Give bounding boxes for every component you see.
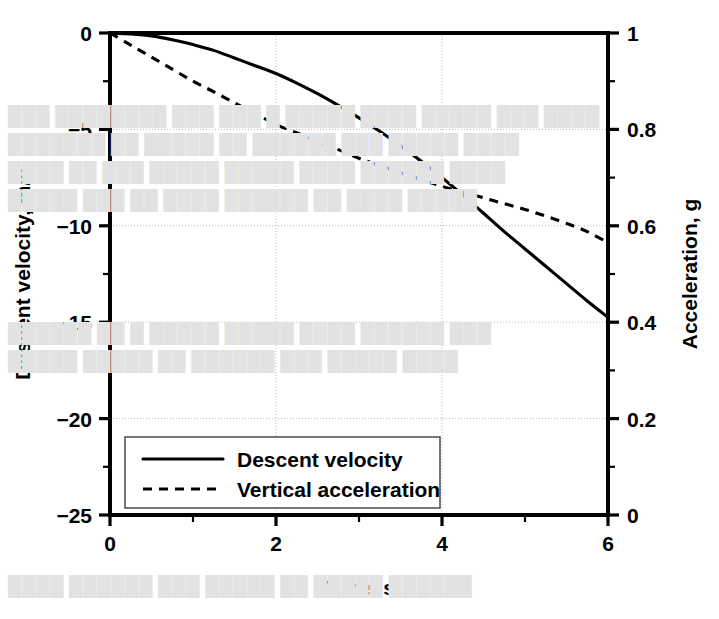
series-line-vertical-acceleration <box>110 33 608 243</box>
y-axis-tick-label: 0 <box>80 22 92 45</box>
y-axis-title: Descent velocity, m/s <box>11 168 34 380</box>
chart-figure: ███ ████████ ███ ███ █ █████ ████ █████ … <box>0 0 719 619</box>
y-axis-tick-label: −25 <box>56 504 92 527</box>
secondary-y-axis-tick-label: 1 <box>627 22 639 45</box>
secondary-y-axis-tick-label: 0.4 <box>627 311 657 334</box>
x-axis-tick-label: 4 <box>436 532 448 555</box>
secondary-y-axis-tick-label: 0.6 <box>627 215 656 238</box>
secondary-y-axis-tick-label: 0 <box>627 504 639 527</box>
legend-label: Vertical acceleration <box>237 478 440 501</box>
dual-axis-line-chart: 0−5−10−15−20−2510.80.60.40.200246 Time, … <box>0 0 719 619</box>
chart-legend: Descent velocityVertical acceleration <box>125 437 440 508</box>
legend-label: Descent velocity <box>237 448 403 471</box>
x-axis-tick-label: 0 <box>104 532 116 555</box>
x-axis-title: Time, s <box>323 576 395 599</box>
y-axis-tick-label: −20 <box>56 408 92 431</box>
x-axis-tick-label: 2 <box>270 532 282 555</box>
secondary-y-axis-tick-label: 0.8 <box>627 118 657 141</box>
data-series-layer <box>110 33 608 317</box>
y-axis-tick-label: −5 <box>68 118 92 141</box>
y-axis-tick-label: −15 <box>56 311 92 334</box>
y-axis-tick-label: −10 <box>56 215 92 238</box>
x-axis-tick-label: 6 <box>602 532 614 555</box>
secondary-y-axis-title: Acceleration, g <box>678 199 701 350</box>
secondary-y-axis-tick-label: 0.2 <box>627 408 656 431</box>
